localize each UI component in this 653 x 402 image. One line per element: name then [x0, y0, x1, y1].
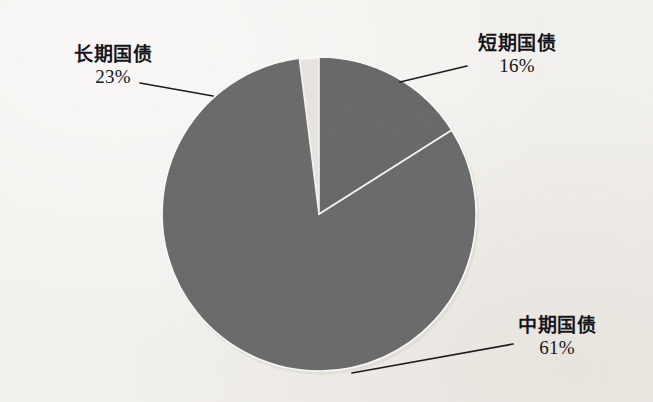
pie-slices-group [162, 57, 476, 371]
pie-label-medium-term: 中期国债 61% [492, 315, 622, 359]
pie-label-short-term-name: 短期国债 [452, 33, 582, 55]
pie-label-medium-term-name: 中期国债 [492, 315, 622, 337]
pie-label-long-term: 长期国债 23% [48, 44, 178, 88]
pie-label-short-term: 短期国债 16% [452, 33, 582, 77]
pie-chart-figure: 短期国债 16% 长期国债 23% 中期国债 61% [0, 0, 653, 402]
pie-label-long-term-name: 长期国债 [48, 44, 178, 66]
pie-label-short-term-value: 16% [452, 55, 582, 77]
pie-label-medium-term-value: 61% [492, 337, 622, 359]
pie-label-long-term-value: 23% [48, 66, 178, 88]
